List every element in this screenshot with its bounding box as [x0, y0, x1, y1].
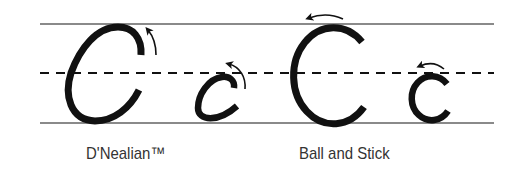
dnealian-uppercase-arrow-icon — [148, 30, 156, 55]
ball-and-stick-label: Ball and Stick — [299, 144, 390, 164]
ballstick-uppercase-c — [294, 15, 364, 124]
ballstick-lowercase-arrow-icon — [420, 64, 444, 69]
ballstick-uppercase-arrow-icon — [309, 15, 343, 19]
dnealian-label: D'Nealian™ — [86, 144, 165, 164]
handwriting-diagram — [0, 0, 528, 169]
